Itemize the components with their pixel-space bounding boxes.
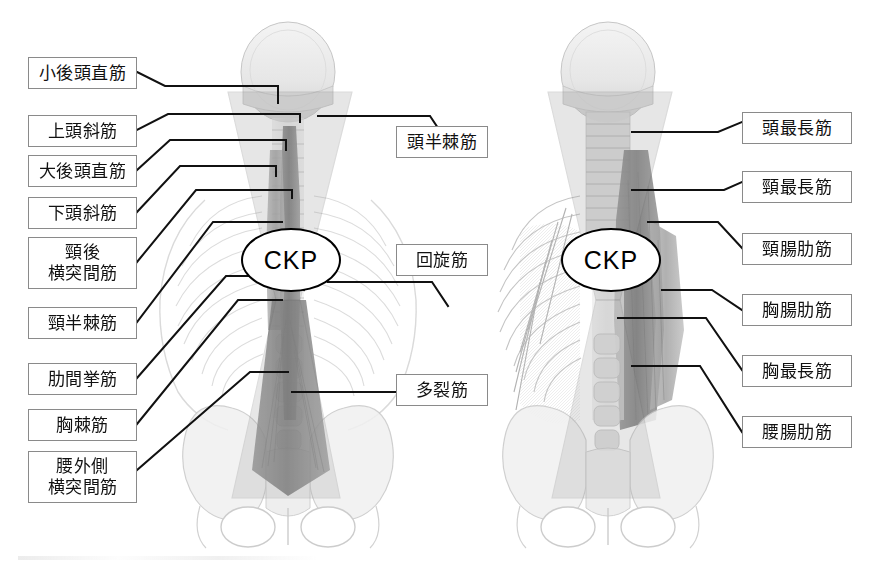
leader-obliquus-capitis-superior xyxy=(137,114,300,130)
label-rectus-capitis-posterior-major[interactable]: 大後頭直筋 xyxy=(28,155,137,187)
leader-levatores-costarum xyxy=(137,276,304,378)
label-intertransversarii-lumborum-lateral[interactable]: 腰外側 横突間筋 xyxy=(28,451,137,503)
label-semispinalis-cervicis[interactable]: 頸半棘筋 xyxy=(28,307,137,339)
label-obliquus-capitis-inferior[interactable]: 下頭斜筋 xyxy=(28,197,137,229)
label-intertransversarii-cervicis-posterior[interactable]: 頸後 横突間筋 xyxy=(28,237,137,289)
leader-spinalis-thoracis xyxy=(137,300,282,424)
leader-iliocostalis-cervicis xyxy=(648,222,742,248)
label-levatores-costarum[interactable]: 肋間挙筋 xyxy=(28,363,137,395)
label-multifidus[interactable]: 多裂筋 xyxy=(396,374,488,406)
label-longissimus-cervicis[interactable]: 頸最長筋 xyxy=(742,171,852,203)
leader-longissimus-thoracis xyxy=(618,318,742,370)
label-obliquus-capitis-superior[interactable]: 上頭斜筋 xyxy=(28,115,137,147)
label-rectus-capitis-posterior-minor[interactable]: 小後頭直筋 xyxy=(28,57,137,89)
leader-iliocostalis-lumborum xyxy=(632,366,742,432)
label-iliocostalis-thoracis[interactable]: 胸腸肋筋 xyxy=(742,294,852,326)
label-iliocostalis-lumborum[interactable]: 腰腸肋筋 xyxy=(742,416,852,448)
leader-rectus-capitis-posterior-minor xyxy=(137,72,278,103)
label-spinalis-thoracis[interactable]: 胸棘筋 xyxy=(28,409,137,441)
label-iliocostalis-cervicis[interactable]: 頸腸肋筋 xyxy=(742,233,852,265)
label-rotatores[interactable]: 回旋筋 xyxy=(396,244,488,276)
ckp-marker-left: CKP xyxy=(241,228,341,292)
leader-iliocostalis-thoracis xyxy=(662,290,742,310)
leader-longissimus-cervicis xyxy=(632,182,742,190)
label-semispinalis-capitis[interactable]: 頭半棘筋 xyxy=(396,126,488,158)
scan-artifact xyxy=(18,556,318,560)
leader-intertransversarii-lumborum xyxy=(137,372,288,470)
leader-rotatores xyxy=(328,282,448,306)
label-longissimus-thoracis[interactable]: 胸最長筋 xyxy=(742,355,852,387)
ckp-marker-right: CKP xyxy=(561,228,661,292)
diagram-canvas: 小後頭直筋 上頭斜筋 大後頭直筋 下頭斜筋 頸後 横突間筋 頸半棘筋 肋間挙筋 … xyxy=(0,0,876,569)
leader-longissimus-capitis xyxy=(632,122,742,132)
label-longissimus-capitis[interactable]: 頭最長筋 xyxy=(742,112,852,144)
